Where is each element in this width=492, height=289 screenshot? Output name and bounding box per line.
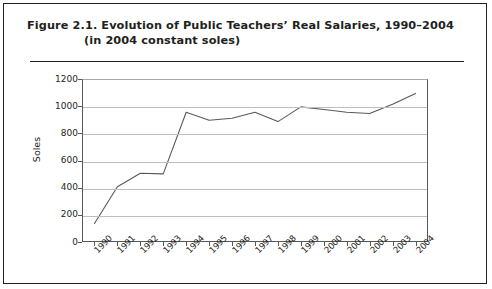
line-series xyxy=(83,80,427,241)
y-tick-label: 200 xyxy=(38,210,78,219)
figure-title-line-2: (in 2004 constant soles) xyxy=(27,33,457,48)
gridline xyxy=(83,189,427,190)
figure-title: Figure 2.1. Evolution of Public Teachers… xyxy=(27,18,457,48)
y-tick-label: 0 xyxy=(38,238,78,247)
gridline xyxy=(83,107,427,108)
title-divider xyxy=(30,61,464,62)
figure-container: Figure 2.1. Evolution of Public Teachers… xyxy=(3,3,487,284)
y-tick-label: 400 xyxy=(38,183,78,192)
plot-area xyxy=(82,79,428,242)
y-tick-label: 800 xyxy=(38,129,78,138)
gridline xyxy=(83,216,427,217)
x-axis: 1990199119921993199419951996199719981999… xyxy=(82,242,428,248)
y-tick-label: 1200 xyxy=(38,75,78,84)
gridline xyxy=(83,162,427,163)
figure-title-line-1: Figure 2.1. Evolution of Public Teachers… xyxy=(27,18,457,33)
y-tick-label: 1000 xyxy=(38,102,78,111)
y-tick-label: 600 xyxy=(38,156,78,165)
series-polyline xyxy=(94,93,415,223)
gridline xyxy=(83,134,427,135)
y-axis-label: Soles xyxy=(31,110,42,190)
